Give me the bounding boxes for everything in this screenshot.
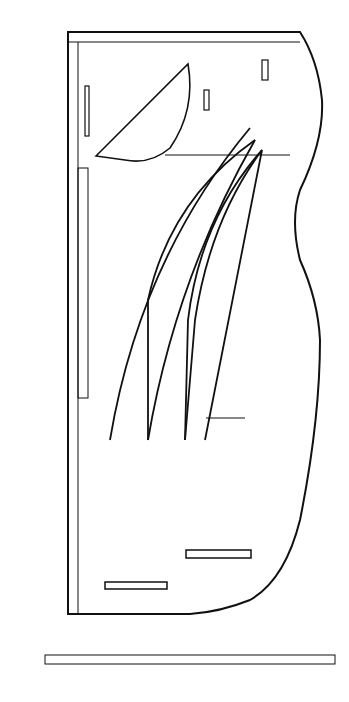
front-neck-curve	[96, 64, 190, 161]
bodice-side-hip-bar	[186, 550, 251, 558]
front-bust-scale-bar	[78, 168, 88, 398]
back-curve-strip	[110, 128, 255, 440]
front-shoulder-slot	[262, 60, 268, 80]
front-neck-slot	[85, 86, 89, 136]
tailoring-square-diagram	[0, 0, 349, 702]
bodice-back-hip-bar	[105, 582, 167, 589]
inch-scale-bar	[45, 655, 335, 664]
back-quarter-strip	[148, 140, 262, 440]
back-shoulder-slot	[204, 90, 209, 110]
armhole-strip	[185, 150, 262, 440]
